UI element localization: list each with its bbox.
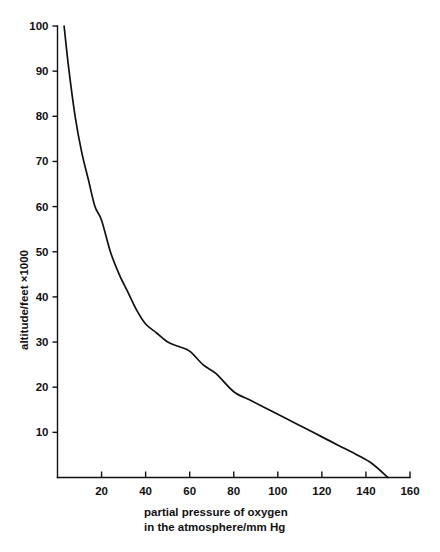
chart-figure: 102030405060708090100 204060801001201401… <box>0 0 440 552</box>
y-tick-label: 30 <box>36 336 49 348</box>
x-tick-label: 140 <box>356 485 375 497</box>
y-tick-label: 80 <box>36 110 49 122</box>
x-tick-label: 120 <box>312 485 331 497</box>
x-tick-label: 40 <box>139 485 152 497</box>
y-tick-label: 100 <box>29 20 48 32</box>
y-tick-label: 40 <box>36 291 49 303</box>
oxygen-altitude-line-chart: 102030405060708090100 204060801001201401… <box>0 0 440 552</box>
chart-background <box>0 0 440 552</box>
x-tick-label: 100 <box>268 485 287 497</box>
y-tick-label: 60 <box>36 201 49 213</box>
y-tick-label: 20 <box>36 381 49 393</box>
x-axis-title-line1: partial pressure of oxygen <box>144 506 288 518</box>
y-tick-label: 10 <box>36 426 49 438</box>
x-tick-label: 60 <box>183 485 196 497</box>
x-axis-title-line2: in the atmosphere/mm Hg <box>144 521 285 533</box>
y-tick-label: 50 <box>36 246 49 258</box>
y-axis-title: altitude/feet ×1000 <box>18 250 30 350</box>
x-tick-label: 20 <box>95 485 108 497</box>
y-tick-label: 90 <box>36 65 49 77</box>
x-tick-label: 160 <box>400 485 419 497</box>
y-tick-label: 70 <box>36 155 49 167</box>
x-tick-label: 80 <box>227 485 240 497</box>
